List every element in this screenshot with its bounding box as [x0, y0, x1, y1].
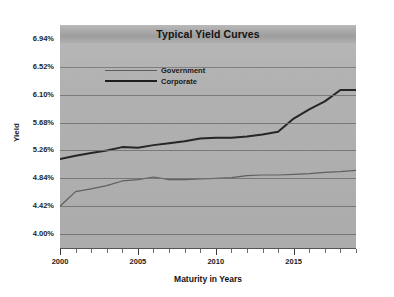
- series-line-corporate: [60, 90, 356, 159]
- x-axis-minor-tick: [185, 249, 186, 253]
- x-axis-minor-tick: [153, 249, 154, 253]
- y-axis-tick-label: 6.94%: [8, 35, 54, 43]
- gridline: [60, 206, 356, 207]
- gridline: [60, 123, 356, 124]
- x-axis-minor-tick: [200, 249, 201, 253]
- legend-swatch-government-icon: [105, 70, 157, 71]
- x-axis-minor-tick: [309, 249, 310, 253]
- series-lines: [60, 25, 356, 248]
- x-axis-major-tick: [138, 249, 139, 255]
- gridline: [60, 234, 356, 235]
- x-axis-minor-tick: [91, 249, 92, 253]
- x-axis-minor-tick: [247, 249, 248, 253]
- x-axis-tick-label: 2010: [199, 257, 233, 266]
- x-axis-tick-label: 2000: [43, 257, 77, 266]
- y-axis-tick-label: 4.00%: [8, 230, 54, 238]
- x-axis-major-tick: [294, 249, 295, 255]
- y-axis-tick-label: 4.42%: [8, 202, 54, 210]
- gridline: [60, 150, 356, 151]
- legend-label-corporate: Corporate: [161, 76, 197, 87]
- x-axis-line: [60, 248, 356, 249]
- x-axis-minor-tick: [122, 249, 123, 253]
- gridline: [60, 95, 356, 96]
- y-axis-tick-label: 6.10%: [8, 91, 54, 99]
- series-line-government: [60, 170, 356, 206]
- yield-curve-chart: Yield 4.00%4.42%4.84%5.26%5.68%6.10%6.52…: [0, 0, 394, 297]
- x-axis-major-tick: [216, 249, 217, 255]
- x-axis-minor-tick: [340, 249, 341, 253]
- legend-item-government: Government: [105, 65, 225, 76]
- x-axis-minor-tick: [263, 249, 264, 253]
- x-axis-title: Maturity in Years: [60, 274, 356, 284]
- y-axis-tick-label: 5.26%: [8, 146, 54, 154]
- legend-swatch-corporate-icon: [105, 80, 157, 82]
- y-axis-tick-label: 4.84%: [8, 174, 54, 182]
- gridline: [60, 178, 356, 179]
- y-axis-tick-label: 5.68%: [8, 119, 54, 127]
- x-axis-minor-tick: [107, 249, 108, 253]
- x-axis-tick-label: 2015: [277, 257, 311, 266]
- x-axis-minor-tick: [356, 249, 357, 253]
- plot-area: Typical Yield Curves Government Corporat…: [60, 25, 356, 248]
- chart-title: Typical Yield Curves: [60, 25, 356, 43]
- x-axis-minor-tick: [278, 249, 279, 253]
- y-axis-tick-label: 6.52%: [8, 63, 54, 71]
- legend-item-corporate: Corporate: [105, 76, 225, 87]
- legend-label-government: Government: [161, 65, 205, 76]
- x-axis-major-tick: [60, 249, 61, 255]
- x-axis-tick-label: 2005: [121, 257, 155, 266]
- chart-legend: Government Corporate: [105, 65, 225, 87]
- x-axis-minor-tick: [169, 249, 170, 253]
- x-axis-minor-tick: [231, 249, 232, 253]
- x-axis-minor-tick: [76, 249, 77, 253]
- x-axis-minor-tick: [325, 249, 326, 253]
